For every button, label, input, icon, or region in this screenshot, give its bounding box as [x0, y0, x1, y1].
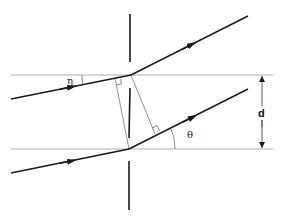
- arrow-icon-lower-diffracted: [183, 117, 193, 122]
- arrow-icon-upper-diffracted: [182, 44, 192, 49]
- slit-diffraction-diagram: η θ d: [0, 0, 281, 223]
- barrier-middle-segment: [129, 88, 130, 138]
- theta-angle-arc: [171, 129, 175, 149]
- theta-label: θ: [187, 129, 193, 140]
- eta-label: η: [67, 75, 73, 86]
- eta-angle-arc: [82, 75, 83, 85]
- diffracted-path-difference-line: [131, 75, 155, 134]
- arrow-icon-upper-incident: [60, 87, 72, 89]
- incident-path-difference-line: [115, 78, 129, 149]
- right-angle-mark-upper: [117, 79, 122, 85]
- d-label: d: [258, 107, 265, 119]
